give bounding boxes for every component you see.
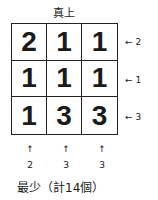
- grid-cell: 1: [82, 24, 117, 61]
- caption: 最少（計14個）: [17, 178, 104, 195]
- arrow-left-icon: ←: [125, 75, 133, 85]
- grid-cell: 1: [47, 61, 82, 98]
- arrow-up-icon: ↑: [23, 142, 37, 156]
- grid-cell: 3: [47, 97, 82, 134]
- column-label-value: 3: [95, 160, 109, 170]
- column-label-value: 2: [23, 160, 37, 170]
- row-label-2: ← 1: [125, 75, 141, 85]
- arrow-up-icon: ↑: [59, 142, 73, 156]
- arrow-left-icon: ←: [125, 37, 133, 47]
- grid-cell: 1: [12, 97, 47, 134]
- cube-count-grid: 2 1 1 1 1 1 1 3 3: [11, 23, 118, 135]
- grid-cell: 1: [12, 61, 47, 98]
- row-label-value: 2: [136, 37, 142, 47]
- row-label-value: 3: [136, 112, 142, 122]
- row-label-value: 1: [136, 75, 142, 85]
- grid-cell: 2: [12, 24, 47, 61]
- row-label-3: ← 3: [125, 112, 141, 122]
- column-label-2: ↑ 3: [59, 142, 73, 170]
- grid-cell: 1: [82, 61, 117, 98]
- arrow-left-icon: ←: [125, 112, 133, 122]
- arrow-up-icon: ↑: [95, 142, 109, 156]
- column-label-1: ↑ 2: [23, 142, 37, 170]
- column-label-3: ↑ 3: [95, 142, 109, 170]
- column-label-value: 3: [59, 160, 73, 170]
- row-label-1: ← 2: [125, 37, 141, 47]
- grid-cell: 3: [82, 97, 117, 134]
- grid-cell: 1: [47, 24, 82, 61]
- view-title: 真上: [53, 4, 75, 20]
